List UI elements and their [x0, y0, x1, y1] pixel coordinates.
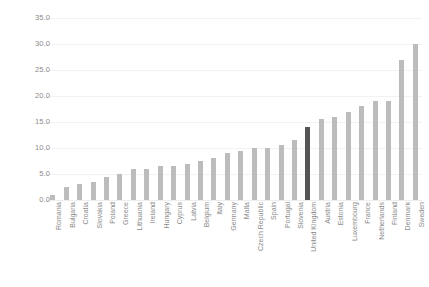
bar: [117, 174, 122, 200]
x-axis-tick-label: Cyprus: [176, 202, 183, 224]
x-axis-tick-label: Romania: [55, 202, 62, 230]
bar: [332, 117, 337, 200]
x-axis-tick-label: Germany: [230, 202, 237, 231]
x-axis-tick-label: Poland: [109, 202, 116, 224]
bar: [319, 119, 324, 200]
bar: [131, 169, 136, 200]
bar: [185, 164, 190, 200]
x-axis-tick-label: Ireland: [149, 202, 156, 223]
bar: [252, 148, 257, 200]
bar: [292, 140, 297, 200]
bar: [64, 187, 69, 200]
x-axis-tick-label: Bulgaria: [69, 202, 76, 228]
bar: [211, 158, 216, 200]
y-axis-tick-label: 25.0: [16, 66, 50, 74]
bar: [265, 148, 270, 200]
x-axis-tick-label: Lithuania: [136, 202, 143, 230]
bar: [413, 44, 418, 200]
x-axis-tick-label: Spain: [270, 202, 277, 220]
bar: [399, 60, 404, 200]
y-axis-tick-label: 30.0: [16, 40, 50, 48]
y-axis-tick-label: 35.0: [16, 14, 50, 22]
bar: [50, 195, 55, 200]
bar: [158, 166, 163, 200]
x-axis-tick-label: Croatia: [82, 202, 89, 225]
x-axis-tick-label: United Kingdom: [310, 202, 317, 252]
x-axis-tick-label: Luxembourg: [351, 202, 358, 241]
x-axis-tick-label: Greece: [122, 202, 129, 225]
x-axis-tick-label: Portugal: [284, 202, 291, 228]
y-axis-tick-label: 10.0: [16, 144, 50, 152]
bar-series: [46, 18, 422, 200]
y-axis-tick-label: 0.0: [16, 196, 50, 204]
x-axis-tick-label: Denmark: [404, 202, 411, 230]
bar: [91, 182, 96, 200]
x-axis-tick-label: Belgium: [203, 202, 210, 227]
x-axis-tick-label: Hungary: [163, 202, 170, 228]
x-axis-tick-label: Malta: [243, 202, 250, 219]
x-axis-tick-label: Czech Republic: [257, 202, 264, 251]
y-axis-tick-label: 15.0: [16, 118, 50, 126]
x-axis-tick-label: Estonia: [337, 202, 344, 225]
x-axis-tick-label: Austria: [324, 202, 331, 224]
bar: [279, 145, 284, 200]
bar: [225, 153, 230, 200]
bar: [346, 112, 351, 200]
y-axis-tick-label: 20.0: [16, 92, 50, 100]
bar: [171, 166, 176, 200]
x-axis-tick-label: Slovakia: [96, 202, 103, 228]
bar: [359, 106, 364, 200]
x-axis-tick-label: Slovenia: [297, 202, 304, 229]
bar: [305, 127, 310, 200]
x-axis-tick-labels: RomaniaBulgariaCroatiaSlovakiaPolandGree…: [46, 202, 422, 286]
bar: [104, 177, 109, 200]
y-axis-tick-label: 5.0: [16, 170, 50, 178]
x-axis-tick-label: Sweden: [418, 202, 425, 227]
bar: [238, 151, 243, 200]
bar: [386, 101, 391, 200]
bar: [77, 184, 82, 200]
bar: [198, 161, 203, 200]
x-axis-tick-label: Finland: [391, 202, 398, 225]
bar-chart: 0.05.010.015.020.025.030.035.0 RomaniaBu…: [0, 0, 429, 287]
x-axis-tick-label: Netherlands: [378, 202, 385, 240]
bar: [373, 101, 378, 200]
x-axis-tick-label: Italy: [216, 202, 223, 215]
x-axis-tick-label: Latvia: [190, 202, 197, 221]
x-axis-tick-label: France: [364, 202, 371, 224]
bar: [144, 169, 149, 200]
